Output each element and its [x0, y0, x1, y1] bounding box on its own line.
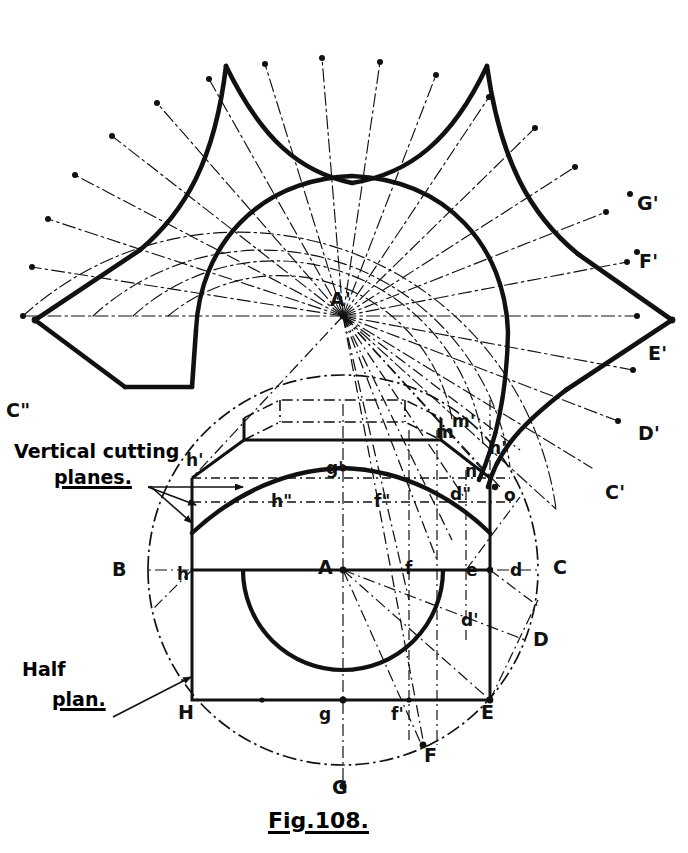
note-vertical-cutting-planes-line1: Vertical cutting: [14, 440, 179, 462]
label-F: F: [424, 746, 437, 765]
label-f-prime-plan: f': [391, 706, 404, 723]
label-f-prime: F': [639, 252, 658, 271]
note-vertical-cutting-planes-line2: planes.: [54, 466, 132, 488]
label-apex-a-prime: A': [330, 290, 351, 309]
label-m: m: [436, 424, 454, 441]
label-d-prime-plan: d': [461, 612, 479, 629]
note-half-plan-line1: Half: [22, 658, 66, 680]
label-G: G: [332, 778, 348, 797]
label-A: A: [318, 558, 333, 577]
label-e-prime: E': [648, 344, 667, 363]
development-vertex-dots: [20, 55, 640, 424]
label-h-double-prime: h": [271, 493, 292, 510]
label-B: B: [112, 560, 127, 579]
apex-projection-rays: [192, 316, 520, 745]
label-H: H: [178, 703, 194, 722]
projection-lines: [409, 400, 490, 745]
figure-caption: Fig.108.: [268, 808, 369, 833]
technical-drawing-canvas: [0, 0, 688, 853]
label-n-prime: n': [489, 440, 507, 457]
label-g-prime-elev: g': [326, 460, 344, 477]
label-D: D: [533, 630, 549, 649]
label-o: o: [504, 487, 516, 504]
label-g-prime: G': [637, 194, 659, 213]
label-h-prime: h': [186, 452, 204, 469]
label-h: h: [177, 566, 189, 583]
label-f: f: [405, 560, 413, 577]
label-e: e: [466, 562, 478, 579]
note-half-plan-line2: plan.: [52, 688, 106, 710]
label-f-double-prime: f": [374, 493, 391, 510]
label-g: g: [319, 706, 331, 723]
label-c-double-prime: C": [6, 401, 30, 420]
half-plan-base-rectangle: [192, 570, 490, 700]
label-n: n: [465, 463, 477, 480]
label-d: d: [510, 562, 522, 579]
drawing-sheet: A' G' F' E' D' C' C" m' m n' n o d" h' g…: [0, 0, 688, 853]
label-d-double-prime: d": [450, 486, 471, 503]
label-C: C: [553, 558, 567, 577]
label-m-prime: m': [452, 413, 475, 430]
label-c-prime: C': [605, 483, 625, 502]
label-E: E: [481, 703, 494, 722]
label-d-prime: D': [638, 424, 660, 443]
